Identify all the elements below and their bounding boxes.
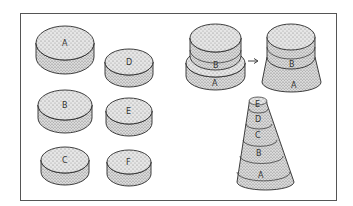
arrow-icon — [248, 59, 258, 64]
disc-label: D — [126, 58, 132, 67]
disc-f: F — [107, 150, 151, 186]
disc-label: B — [62, 101, 68, 110]
disc-label: C — [62, 156, 68, 165]
disc-e: E — [106, 98, 152, 136]
stack-before-label-b: B — [213, 61, 219, 70]
disc-b: B — [38, 90, 92, 133]
cone-label-a: A — [258, 171, 264, 180]
disc-d: D — [105, 49, 153, 87]
stack-after: B A — [262, 24, 321, 92]
stack-after-disc-b-top — [267, 24, 315, 50]
figure-canvas: ABCDEF B A B A E D — [0, 0, 353, 206]
cone-label-b: B — [256, 149, 262, 158]
disc-a: A — [36, 26, 94, 74]
cone-label-c: C — [255, 131, 261, 140]
disc-label: A — [62, 39, 68, 48]
stack-after-label-b: B — [289, 60, 295, 69]
disc-c: C — [41, 147, 89, 185]
stack-before-disc-b-top — [190, 24, 241, 52]
diagram-svg: ABCDEF B A B A E D — [0, 0, 353, 206]
cone-label-d: D — [255, 115, 261, 124]
stack-after-label-a: A — [291, 81, 297, 90]
stack-before: B A — [186, 24, 245, 90]
disc-label: E — [126, 107, 131, 116]
disc-label: F — [126, 158, 131, 167]
disc-collection: ABCDEF — [36, 26, 153, 186]
cone-stack: E D C B A — [237, 97, 294, 190]
cone-label-e: E — [255, 100, 260, 109]
stack-before-label-a: A — [212, 79, 218, 88]
